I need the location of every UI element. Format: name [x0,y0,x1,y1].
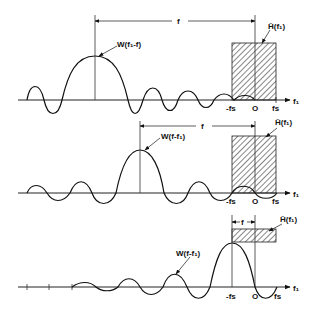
shift-label: f [241,218,244,227]
window-curve [27,56,255,114]
axis-label: f₁ [293,284,300,293]
axis-label: f₁ [293,190,300,199]
window-label: W(f-f₁) [161,132,186,141]
tick-neg-fs: -fs [226,292,236,301]
panel-bottom: f W(f-f₁) H̃(f₁) -fs O fs f₁ [18,215,300,301]
filter-label: H̃(f₁) [268,22,285,31]
panel-middle: f W(f-f₁) H̃(f₁) -fs O fs f₁ [18,118,300,206]
window-label: W(f₁-f) [117,40,142,49]
tick-fs: fs [274,292,282,301]
filter-box [232,136,276,193]
window-label: W(f-f₁) [176,249,201,258]
diagram-canvas: f W(f₁-f) H̃(f₁) -fs O fs f₁ f W(f-f₁) H… [0,0,318,318]
filter-label: H̃(f₁) [275,118,292,127]
tick-neg-fs: -fs [226,104,236,113]
figure: f W(f₁-f) H̃(f₁) -fs O fs f₁ f W(f-f₁) H… [0,0,318,318]
shift-label: f [177,17,180,26]
tick-zero: O [252,292,258,301]
filter-label: H̃(f₁) [280,215,297,224]
tick-fs: fs [272,104,280,113]
filter-box [232,43,276,100]
panel-top: f W(f₁-f) H̃(f₁) -fs O fs f₁ [18,15,300,114]
shift-label: f [201,122,204,131]
tick-neg-fs: -fs [226,197,236,206]
tick-zero: O [252,197,258,206]
tick-fs: fs [272,197,280,206]
tick-zero: O [252,104,258,113]
window-curve [72,243,277,298]
axis-label: f₁ [293,97,300,106]
